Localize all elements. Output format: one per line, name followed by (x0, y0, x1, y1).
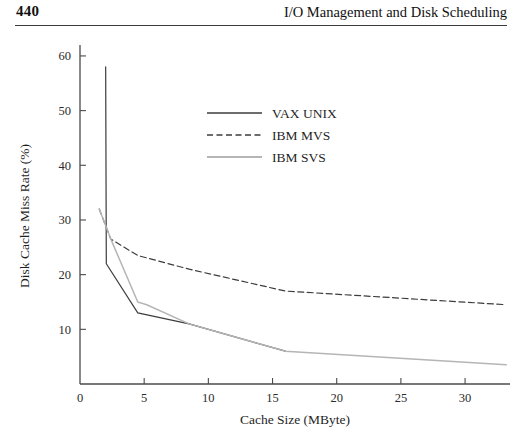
series-line-vax-unix (106, 67, 286, 351)
y-tick-label: 50 (59, 104, 72, 118)
x-tick-label: 30 (459, 391, 472, 405)
chart-axes (80, 45, 510, 384)
legend-label-ibm-svs: IBM SVS (272, 150, 326, 165)
line-chart-figure: 102030405060 51015202530 0 Cache Size (M… (0, 28, 521, 432)
y-tick-label: 40 (59, 159, 72, 173)
x-tick-label: 15 (266, 391, 279, 405)
chart-canvas: 102030405060 51015202530 0 Cache Size (M… (0, 28, 521, 432)
header-divider (15, 25, 507, 26)
y-axis-ticks (80, 56, 86, 329)
x-tick-label: 5 (141, 391, 147, 405)
series-line-ibm-svs (99, 209, 506, 365)
x-tick-label: 20 (330, 391, 343, 405)
legend-label-ibm-mvs: IBM MVS (272, 128, 330, 143)
chart-legend: VAX UNIXIBM MVSIBM SVS (207, 106, 337, 165)
y-axis-tick-labels: 102030405060 (59, 49, 72, 336)
y-tick-label: 10 (59, 323, 72, 337)
x-axis-ticks (144, 378, 465, 384)
x-axis-title: Cache Size (MByte) (240, 412, 350, 427)
x-tick-label: 10 (202, 391, 215, 405)
y-tick-label: 30 (59, 213, 72, 227)
page-number: 440 (16, 3, 39, 20)
x-tick-label-origin: 0 (77, 391, 83, 405)
x-axis-tick-labels: 51015202530 (141, 391, 471, 405)
y-tick-label: 20 (59, 268, 72, 282)
y-tick-label: 60 (59, 49, 72, 63)
y-axis-title: Disk Cache Miss Rate (%) (17, 144, 32, 288)
series-line-ibm-mvs (99, 209, 506, 305)
x-tick-label: 25 (395, 391, 408, 405)
x-axis-origin-label: 0 (77, 391, 83, 405)
header-title: I/O Management and Disk Scheduling (284, 4, 507, 21)
legend-label-vax-unix: VAX UNIX (272, 106, 337, 121)
page-header: 440 I/O Management and Disk Scheduling (0, 0, 521, 28)
